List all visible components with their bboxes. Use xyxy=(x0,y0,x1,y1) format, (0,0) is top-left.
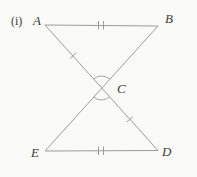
angle-arc-ECD xyxy=(94,97,110,100)
labels: (i) A B C E D xyxy=(11,11,173,160)
geometry-figure: (i) A B C E D xyxy=(0,0,197,177)
diagram-canvas: (i) A B C E D xyxy=(0,0,197,177)
segment-ED xyxy=(45,151,158,152)
triangle-lines xyxy=(45,25,158,151)
segment-AB xyxy=(45,25,158,26)
angle-arc-ACB xyxy=(94,76,110,79)
figure-index-label: (i) xyxy=(11,14,22,28)
vertex-label-D: D xyxy=(161,144,172,159)
vertex-label-A: A xyxy=(32,13,41,28)
vertex-label-E: E xyxy=(30,145,39,160)
vertex-label-C: C xyxy=(117,81,126,96)
vertex-label-B: B xyxy=(165,11,173,26)
